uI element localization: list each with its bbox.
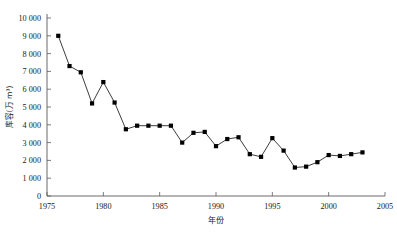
y-tick-label: 10 000 xyxy=(18,14,41,23)
data-point-marker xyxy=(360,150,364,154)
y-tick-label: 4 000 xyxy=(23,121,41,130)
data-point-marker xyxy=(259,155,263,159)
y-tick-label: 9 000 xyxy=(23,32,41,41)
data-point-marker xyxy=(79,70,83,74)
data-point-marker xyxy=(248,152,252,156)
y-tick-label: 5 000 xyxy=(23,103,41,112)
data-point-marker xyxy=(315,160,319,164)
x-tick-label: 2005 xyxy=(377,202,393,211)
chart-canvas: 01 0002 0003 0004 0005 0006 0007 0008 00… xyxy=(0,0,397,237)
data-point-marker xyxy=(101,80,105,84)
x-tick-label: 1990 xyxy=(208,202,224,211)
data-point-marker xyxy=(225,137,229,141)
data-point-marker xyxy=(90,101,94,105)
x-tick-label: 1975 xyxy=(39,202,55,211)
x-tick-label: 1995 xyxy=(264,202,280,211)
x-tick-label: 2000 xyxy=(320,202,336,211)
data-point-marker xyxy=(214,144,218,148)
data-point-marker xyxy=(293,165,297,169)
data-point-marker xyxy=(67,64,71,68)
y-tick-label: 2 000 xyxy=(23,156,41,165)
y-tick-label: 1 000 xyxy=(23,174,41,183)
data-point-marker xyxy=(203,130,207,134)
y-axis-title: 库容(万 m³) xyxy=(4,86,14,129)
reservoir-capacity-line-chart: 01 0002 0003 0004 0005 0006 0007 0008 00… xyxy=(0,0,397,237)
data-point-marker xyxy=(135,124,139,128)
series-line xyxy=(58,36,362,168)
data-point-marker xyxy=(349,152,353,156)
data-point-marker xyxy=(282,149,286,153)
y-tick-label: 7 000 xyxy=(23,67,41,76)
data-point-marker xyxy=(304,165,308,169)
data-point-marker xyxy=(146,124,150,128)
data-point-marker xyxy=(180,141,184,145)
x-tick-label: 1980 xyxy=(95,202,111,211)
data-point-marker xyxy=(338,154,342,158)
y-tick-label: 8 000 xyxy=(23,50,41,59)
data-point-marker xyxy=(191,131,195,135)
data-point-marker xyxy=(113,100,117,104)
data-point-marker xyxy=(56,34,60,38)
x-tick-label: 1985 xyxy=(151,202,167,211)
data-point-marker xyxy=(236,135,240,139)
y-tick-label: 3 000 xyxy=(23,139,41,148)
y-tick-label: 6 000 xyxy=(23,85,41,94)
y-tick-label: 0 xyxy=(37,192,41,201)
data-point-marker xyxy=(169,124,173,128)
data-point-marker xyxy=(327,153,331,157)
data-point-marker xyxy=(158,124,162,128)
x-axis-title: 年份 xyxy=(208,215,224,225)
data-point-marker xyxy=(270,136,274,140)
data-point-marker xyxy=(124,127,128,131)
